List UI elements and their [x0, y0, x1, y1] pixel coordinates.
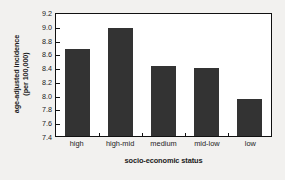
- bar: [194, 68, 218, 136]
- x-tick-label: high: [55, 139, 98, 148]
- plot-area: [55, 13, 272, 137]
- bar-slot: [142, 14, 185, 136]
- y-axis-title-line1: age-adjusted incidence: [12, 35, 21, 114]
- bar-series: [56, 14, 271, 136]
- y-tick-label: 9.0: [42, 22, 52, 31]
- y-tick-mark: [56, 110, 60, 111]
- x-tick-label: mid-low: [185, 139, 228, 148]
- y-tick-mark: [56, 42, 60, 43]
- x-tick-mark: [142, 133, 143, 137]
- bar: [151, 66, 175, 136]
- y-tick-label: 8.8: [42, 36, 52, 45]
- bar-slot: [56, 14, 99, 136]
- y-tick-mark: [56, 28, 60, 29]
- y-axis-title-line2: (per 100,000): [21, 52, 30, 95]
- y-axis-title: age-adjusted incidence (per 100,000): [6, 10, 36, 138]
- x-tick-mark: [185, 133, 186, 137]
- bar: [65, 49, 89, 136]
- y-tick-mark: [56, 83, 60, 84]
- y-tick-label: 7.6: [42, 119, 52, 128]
- x-axis-title: socio-economic status: [55, 156, 272, 165]
- y-tick-label: 9.2: [42, 9, 52, 18]
- bar-slot: [228, 14, 271, 136]
- y-tick-label: 8.2: [42, 77, 52, 86]
- y-tick-mark: [56, 69, 60, 70]
- y-tick-label: 7.8: [42, 105, 52, 114]
- x-tick-mark: [99, 133, 100, 137]
- y-tick-mark: [56, 55, 60, 56]
- y-axis-tick-labels: 7.47.67.88.08.28.48.68.89.09.2: [33, 13, 52, 137]
- y-tick-label: 8.4: [42, 64, 52, 73]
- x-tick-label: high-mid: [98, 139, 141, 148]
- y-axis-title-text: age-adjusted incidence (per 100,000): [12, 35, 30, 114]
- bar-slot: [99, 14, 142, 136]
- y-tick-label: 8.0: [42, 91, 52, 100]
- y-tick-mark: [56, 124, 60, 125]
- x-tick-mark: [228, 133, 229, 137]
- x-tick-label: low: [229, 139, 272, 148]
- x-axis-tick-labels: highhigh-midmediummid-lowlow: [55, 139, 272, 148]
- y-tick-mark: [56, 97, 60, 98]
- y-tick-label: 8.6: [42, 50, 52, 59]
- bar-slot: [185, 14, 228, 136]
- bar: [108, 28, 132, 136]
- y-tick-label: 7.4: [42, 133, 52, 142]
- bar: [237, 99, 261, 136]
- chart-figure: age-adjusted incidence (per 100,000) 7.4…: [0, 0, 285, 180]
- x-tick-label: medium: [142, 139, 185, 148]
